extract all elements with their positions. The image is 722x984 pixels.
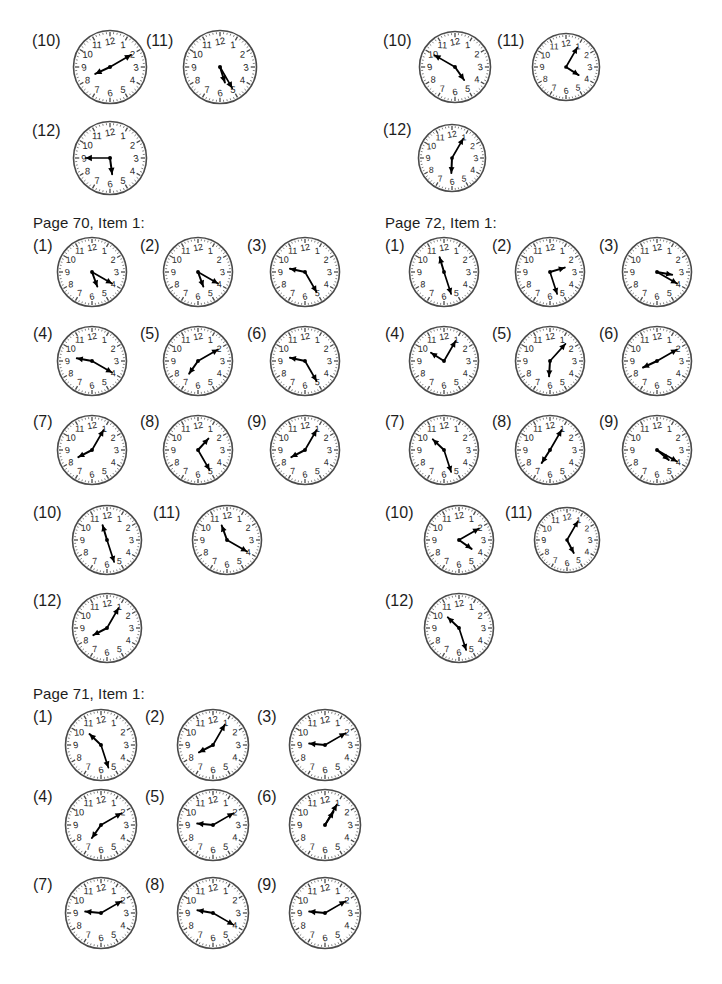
clock-label: (12) xyxy=(33,593,61,609)
svg-text:8: 8 xyxy=(429,165,434,175)
clock-face: 123456789101112 xyxy=(529,30,603,104)
svg-text:11: 11 xyxy=(288,424,298,434)
svg-text:8: 8 xyxy=(300,921,305,931)
svg-text:10: 10 xyxy=(186,727,197,738)
svg-text:11: 11 xyxy=(435,132,445,142)
svg-text:8: 8 xyxy=(420,457,425,467)
svg-text:1: 1 xyxy=(207,246,213,256)
svg-text:10: 10 xyxy=(298,807,309,818)
svg-text:2: 2 xyxy=(676,433,681,443)
svg-text:5: 5 xyxy=(465,84,470,94)
svg-text:4: 4 xyxy=(462,368,468,378)
svg-text:7: 7 xyxy=(535,466,541,476)
svg-text:10: 10 xyxy=(417,343,428,354)
svg-text:7: 7 xyxy=(198,842,204,852)
svg-text:2: 2 xyxy=(569,433,574,443)
clock-face: 123456789101112 xyxy=(421,502,497,578)
svg-text:7: 7 xyxy=(444,556,450,566)
svg-text:12: 12 xyxy=(544,331,556,343)
svg-text:5: 5 xyxy=(117,644,122,654)
clock-label: (9) xyxy=(247,414,267,430)
clock-label: (12) xyxy=(32,123,60,139)
svg-text:8: 8 xyxy=(526,279,531,289)
svg-text:12: 12 xyxy=(319,714,331,726)
svg-text:5: 5 xyxy=(117,556,122,566)
svg-text:7: 7 xyxy=(429,466,435,476)
clock-label: (10) xyxy=(383,33,411,49)
svg-text:8: 8 xyxy=(188,833,193,843)
svg-text:1: 1 xyxy=(207,424,213,434)
svg-text:10: 10 xyxy=(523,432,534,443)
svg-text:8: 8 xyxy=(174,279,179,289)
svg-text:8: 8 xyxy=(195,74,201,85)
svg-text:8: 8 xyxy=(544,546,549,556)
svg-text:10: 10 xyxy=(432,610,443,621)
svg-text:5: 5 xyxy=(223,842,228,852)
svg-text:7: 7 xyxy=(77,377,83,387)
svg-text:7: 7 xyxy=(440,84,446,94)
clock-label: (1) xyxy=(33,238,53,254)
svg-text:1: 1 xyxy=(120,39,126,50)
svg-text:5: 5 xyxy=(315,466,320,476)
svg-text:7: 7 xyxy=(551,82,557,92)
clock-label: (1) xyxy=(33,709,53,725)
svg-text:4: 4 xyxy=(568,368,574,378)
svg-text:10: 10 xyxy=(171,343,182,354)
clock-face: 123456789101112 xyxy=(174,874,252,952)
svg-text:1: 1 xyxy=(453,424,459,434)
section-title-page-72-item-1: Page 72, Item 1: xyxy=(385,214,497,231)
svg-text:8: 8 xyxy=(83,547,88,557)
svg-text:7: 7 xyxy=(535,288,541,298)
svg-text:4: 4 xyxy=(120,920,126,930)
svg-text:4: 4 xyxy=(216,279,222,289)
clock-face: 123456789101112 xyxy=(174,706,252,784)
svg-text:12: 12 xyxy=(449,36,461,48)
svg-text:2: 2 xyxy=(120,895,125,905)
clock-face: 123456789101112 xyxy=(267,323,343,399)
svg-text:2: 2 xyxy=(120,727,125,737)
svg-text:4: 4 xyxy=(232,920,238,930)
clock-label: (8) xyxy=(145,877,165,893)
svg-text:10: 10 xyxy=(432,522,443,533)
svg-text:12: 12 xyxy=(192,331,204,343)
svg-text:7: 7 xyxy=(290,466,296,476)
svg-text:8: 8 xyxy=(85,74,91,85)
svg-text:4: 4 xyxy=(323,457,329,467)
svg-text:5: 5 xyxy=(469,556,474,566)
svg-text:11: 11 xyxy=(442,602,452,612)
clock-face: 123456789101112 xyxy=(267,412,343,488)
svg-text:4: 4 xyxy=(125,635,131,645)
svg-text:8: 8 xyxy=(174,368,179,378)
svg-text:1: 1 xyxy=(468,514,474,524)
svg-text:11: 11 xyxy=(427,335,437,345)
svg-text:2: 2 xyxy=(463,255,468,265)
svg-text:12: 12 xyxy=(438,420,450,432)
svg-text:10: 10 xyxy=(417,254,428,265)
svg-text:5: 5 xyxy=(560,466,565,476)
svg-text:2: 2 xyxy=(232,895,237,905)
clock-label: (11) xyxy=(146,33,173,49)
svg-text:8: 8 xyxy=(633,457,638,467)
clock-label: (2) xyxy=(140,238,160,254)
svg-text:7: 7 xyxy=(310,842,316,852)
clock-face: 123456789101112 xyxy=(267,234,343,310)
svg-text:5: 5 xyxy=(335,762,340,772)
svg-text:7: 7 xyxy=(429,377,435,387)
svg-text:11: 11 xyxy=(640,246,650,256)
svg-text:8: 8 xyxy=(76,753,81,763)
svg-text:4: 4 xyxy=(323,279,329,289)
svg-text:12: 12 xyxy=(86,331,98,343)
worksheet-page: (10)123456789101112(11)123456789101112(1… xyxy=(0,0,722,984)
svg-text:8: 8 xyxy=(526,457,531,467)
svg-text:2: 2 xyxy=(120,807,125,817)
clock-label: (6) xyxy=(257,789,277,805)
svg-text:12: 12 xyxy=(192,242,204,254)
svg-text:5: 5 xyxy=(223,762,228,772)
svg-text:5: 5 xyxy=(576,555,581,565)
svg-text:11: 11 xyxy=(288,246,298,256)
section-title-page-70-item-1: Page 70, Item 1: xyxy=(33,214,145,231)
svg-text:1: 1 xyxy=(666,246,672,256)
svg-text:4: 4 xyxy=(675,368,681,378)
svg-text:12: 12 xyxy=(651,242,663,254)
svg-text:2: 2 xyxy=(217,255,222,265)
